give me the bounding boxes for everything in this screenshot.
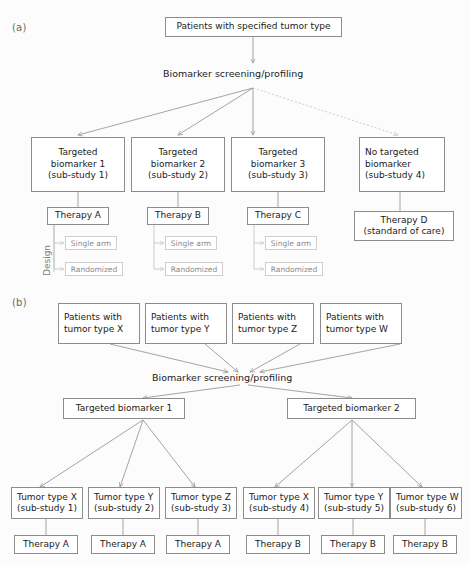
- left-therapy-3-label: Therapy A: [175, 539, 221, 551]
- panel-a-screening-text: Biomarker screening/profiling: [163, 68, 303, 79]
- panel-a-therapy-box-control: Therapy D (standard of care): [354, 211, 454, 241]
- right-therapy-2-label: Therapy B: [330, 539, 376, 551]
- patient-box-3-line-2: tumor type Z: [238, 324, 297, 336]
- panel-b-screening-text: Biomarker screening/profiling: [152, 372, 292, 383]
- therapy-d-line-1: Therapy D: [381, 215, 428, 227]
- left-tumor-1-line-2: (sub-study 1): [17, 503, 77, 515]
- patient-box-2-line-1: Patients with: [151, 312, 209, 324]
- panel-b-patient-box-3: Patients with tumor type Z: [232, 303, 314, 344]
- arm-2-line-2: biomarker 2: [151, 159, 205, 171]
- panel-a-root-text: Patients with specified tumor type: [176, 21, 330, 33]
- therapy-a-label: Therapy A: [55, 210, 101, 222]
- panel-b-right-therapy-box-1: Therapy B: [246, 535, 310, 554]
- arm-1-line-1: Targeted: [58, 147, 97, 159]
- randomized-label-2: Randomized: [171, 265, 217, 274]
- arm-1-line-2: biomarker 1: [51, 159, 105, 171]
- control-arm-line-2: biomarker: [365, 159, 411, 171]
- right-tumor-1-line-2: (sub-study 4): [249, 503, 309, 515]
- panel-b-biomarker-box-2: Targeted biomarker 2: [287, 398, 416, 419]
- panel-a-root-box: Patients with specified tumor type: [165, 17, 342, 37]
- biomarker-1-label: Targeted biomarker 1: [76, 403, 172, 415]
- left-therapy-2-label: Therapy A: [100, 539, 146, 551]
- design-option-single-arm-3: Single arm: [265, 236, 317, 250]
- figure-canvas: (a) Patients with specified tumor type B…: [0, 0, 469, 565]
- panel-a-therapy-box-3: Therapy C: [247, 207, 309, 225]
- patient-box-2-line-2: tumor type Y: [151, 324, 210, 336]
- therapy-b-label: Therapy B: [155, 210, 201, 222]
- patient-box-4-line-1: Patients with: [326, 312, 384, 324]
- randomized-label-3: Randomized: [271, 265, 317, 274]
- biomarker-2-label: Targeted biomarker 2: [303, 403, 399, 415]
- left-therapy-1-label: Therapy A: [23, 539, 69, 551]
- panel-b-left-tumor-box-3: Tumor type Z (sub-study 3): [165, 487, 237, 519]
- left-tumor-2-line-1: Tumor type Y: [94, 492, 153, 504]
- arm-3-line-1: Targeted: [258, 147, 297, 159]
- randomized-label-1: Randomized: [71, 265, 117, 274]
- control-arm-line-1: No targeted: [365, 147, 419, 159]
- panel-b-left-tumor-box-2: Tumor type Y (sub-study 2): [88, 487, 160, 519]
- panel-b-right-therapy-box-2: Therapy B: [321, 535, 385, 554]
- arm-3-line-3: (sub-study 3): [248, 170, 308, 182]
- patient-box-1-line-2: tumor type X: [64, 324, 123, 336]
- therapy-d-line-2: (standard of care): [364, 226, 445, 238]
- design-option-single-arm-2: Single arm: [165, 236, 217, 250]
- right-tumor-3-line-1: Tumor type W: [396, 492, 459, 504]
- panel-a-therapy-box-2: Therapy B: [147, 207, 209, 225]
- arm-2-line-3: (sub-study 2): [148, 170, 208, 182]
- panel-a-label: (a): [12, 22, 27, 33]
- design-option-single-arm-1: Single arm: [65, 236, 117, 250]
- left-tumor-1-line-1: Tumor type X: [17, 492, 77, 504]
- panel-a-arm-box-2: Targeted biomarker 2 (sub-study 2): [131, 137, 225, 192]
- left-tumor-3-line-1: Tumor type Z: [171, 492, 231, 504]
- panel-b-left-tumor-box-1: Tumor type X (sub-study 1): [11, 487, 83, 519]
- panel-b-biomarker-box-1: Targeted biomarker 1: [63, 398, 185, 419]
- therapy-c-label: Therapy C: [255, 210, 301, 222]
- right-therapy-3-label: Therapy B: [402, 539, 448, 551]
- panel-b-right-therapy-box-3: Therapy B: [393, 535, 457, 554]
- right-tumor-3-line-2: (sub-study 6): [396, 503, 456, 515]
- panel-b-left-therapy-box-2: Therapy A: [91, 535, 155, 554]
- patient-box-1-line-1: Patients with: [64, 312, 122, 324]
- design-option-randomized-1: Randomized: [65, 262, 123, 276]
- arm-3-line-2: biomarker 3: [251, 159, 305, 171]
- panel-b-right-tumor-box-2: Tumor type Y (sub-study 5): [318, 487, 390, 519]
- panel-b-left-therapy-box-1: Therapy A: [14, 535, 78, 554]
- single-arm-label-3: Single arm: [271, 239, 311, 248]
- panel-b-label: (b): [12, 297, 27, 308]
- panel-b-patient-box-4: Patients with tumor type W: [320, 303, 402, 344]
- right-tumor-2-line-1: Tumor type Y: [324, 492, 383, 504]
- panel-a-arm-box-3: Targeted biomarker 3 (sub-study 3): [231, 137, 325, 192]
- single-arm-label-1: Single arm: [71, 239, 111, 248]
- design-option-randomized-2: Randomized: [165, 262, 223, 276]
- right-tumor-2-line-2: (sub-study 5): [324, 503, 384, 515]
- left-tumor-3-line-2: (sub-study 3): [171, 503, 231, 515]
- patient-box-4-line-2: tumor type W: [326, 324, 388, 336]
- panel-b-left-therapy-box-3: Therapy A: [166, 535, 230, 554]
- panel-a-arm-box-1: Targeted biomarker 1 (sub-study 1): [31, 137, 125, 192]
- panel-b-right-tumor-box-3: Tumor type W (sub-study 6): [390, 487, 462, 519]
- design-option-randomized-3: Randomized: [265, 262, 323, 276]
- patient-box-3-line-1: Patients with: [238, 312, 296, 324]
- connector-layer: [0, 0, 469, 565]
- left-tumor-2-line-2: (sub-study 2): [94, 503, 154, 515]
- right-tumor-1-line-1: Tumor type X: [249, 492, 309, 504]
- panel-a-control-arm-box: No targeted biomarker (sub-study 4): [359, 137, 445, 192]
- panel-b-patient-box-2: Patients with tumor type Y: [145, 303, 227, 344]
- arm-1-line-3: (sub-study 1): [48, 170, 108, 182]
- panel-b-right-tumor-box-1: Tumor type X (sub-study 4): [243, 487, 315, 519]
- control-arm-line-3: (sub-study 4): [365, 170, 425, 182]
- single-arm-label-2: Single arm: [171, 239, 211, 248]
- panel-b-patient-box-1: Patients with tumor type X: [58, 303, 140, 344]
- design-axis-label: Design: [42, 245, 52, 276]
- arm-2-line-1: Targeted: [158, 147, 197, 159]
- panel-a-therapy-box-1: Therapy A: [47, 207, 109, 225]
- right-therapy-1-label: Therapy B: [255, 539, 301, 551]
